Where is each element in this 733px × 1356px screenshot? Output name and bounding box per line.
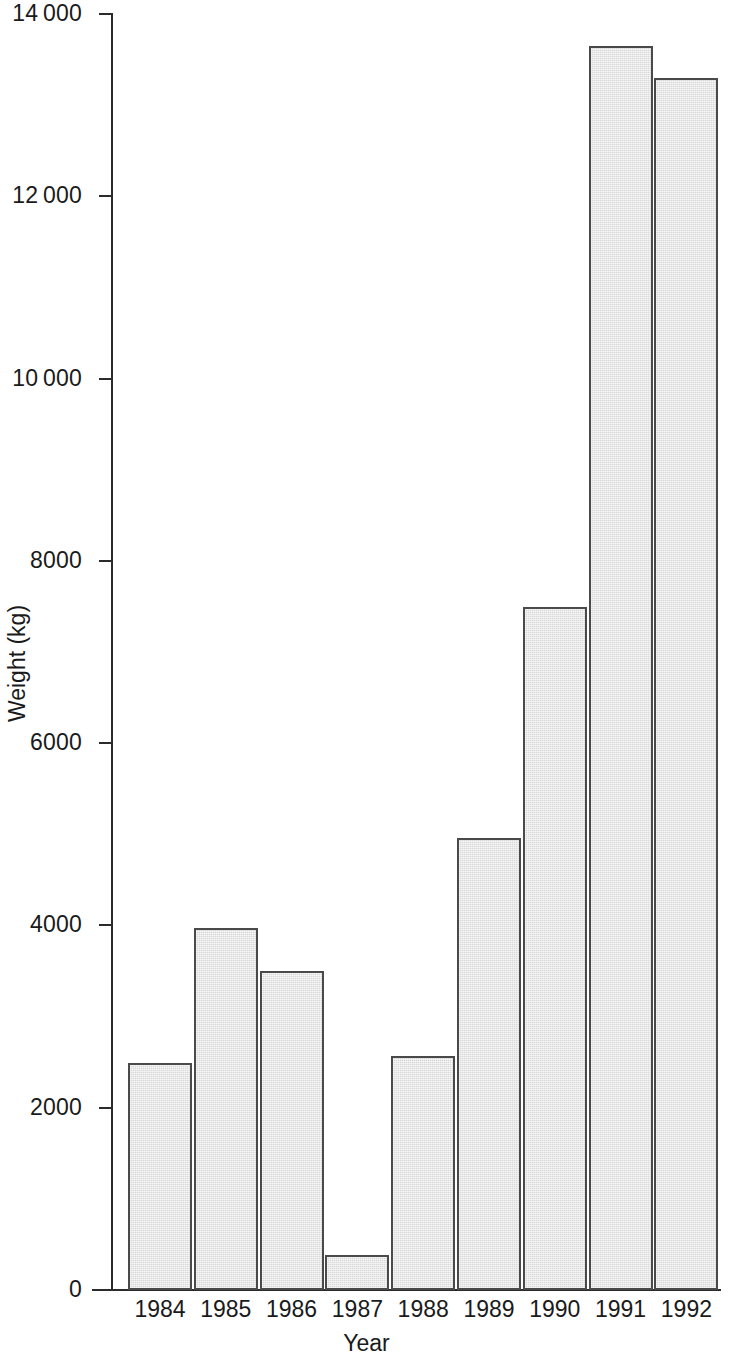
y-axis-tick	[99, 1107, 112, 1109]
bar-1991	[589, 46, 653, 1290]
y-axis-tick-label: 8000	[30, 549, 82, 572]
bar-chart-figure: 0200040006000800010 00012 00014 000 1984…	[0, 0, 733, 1356]
y-axis-tick-label: 10 000	[12, 367, 82, 390]
bar-1986	[260, 971, 324, 1290]
bar-1990	[523, 607, 587, 1290]
y-axis-tick-label: 14 000	[12, 2, 82, 25]
y-axis-tick	[99, 13, 112, 15]
y-axis-tick	[99, 560, 112, 562]
y-axis-tick	[99, 195, 112, 197]
bar-1987	[325, 1255, 389, 1290]
y-axis-tick-label: 0	[69, 1278, 82, 1301]
y-axis-tick	[99, 1289, 112, 1291]
y-axis-tick	[99, 742, 112, 744]
bar-1984	[128, 1063, 192, 1290]
y-axis-title: Weight (kg)	[6, 534, 29, 794]
bar-1985	[194, 928, 258, 1290]
bar-1988	[391, 1056, 455, 1290]
y-axis-tick-label: 12 000	[12, 184, 82, 207]
y-axis-tick-label: 2000	[30, 1096, 82, 1119]
y-axis-tick-label: 4000	[30, 913, 82, 936]
bar-1989	[457, 838, 521, 1290]
y-axis-tick	[99, 378, 112, 380]
plot-area	[112, 14, 720, 1290]
x-axis-tick-label: 1992	[646, 1298, 726, 1321]
x-axis-title: Year	[0, 1332, 733, 1355]
y-axis-tick-label: 6000	[30, 731, 82, 754]
bar-1992	[654, 78, 718, 1290]
y-axis-tick	[99, 924, 112, 926]
